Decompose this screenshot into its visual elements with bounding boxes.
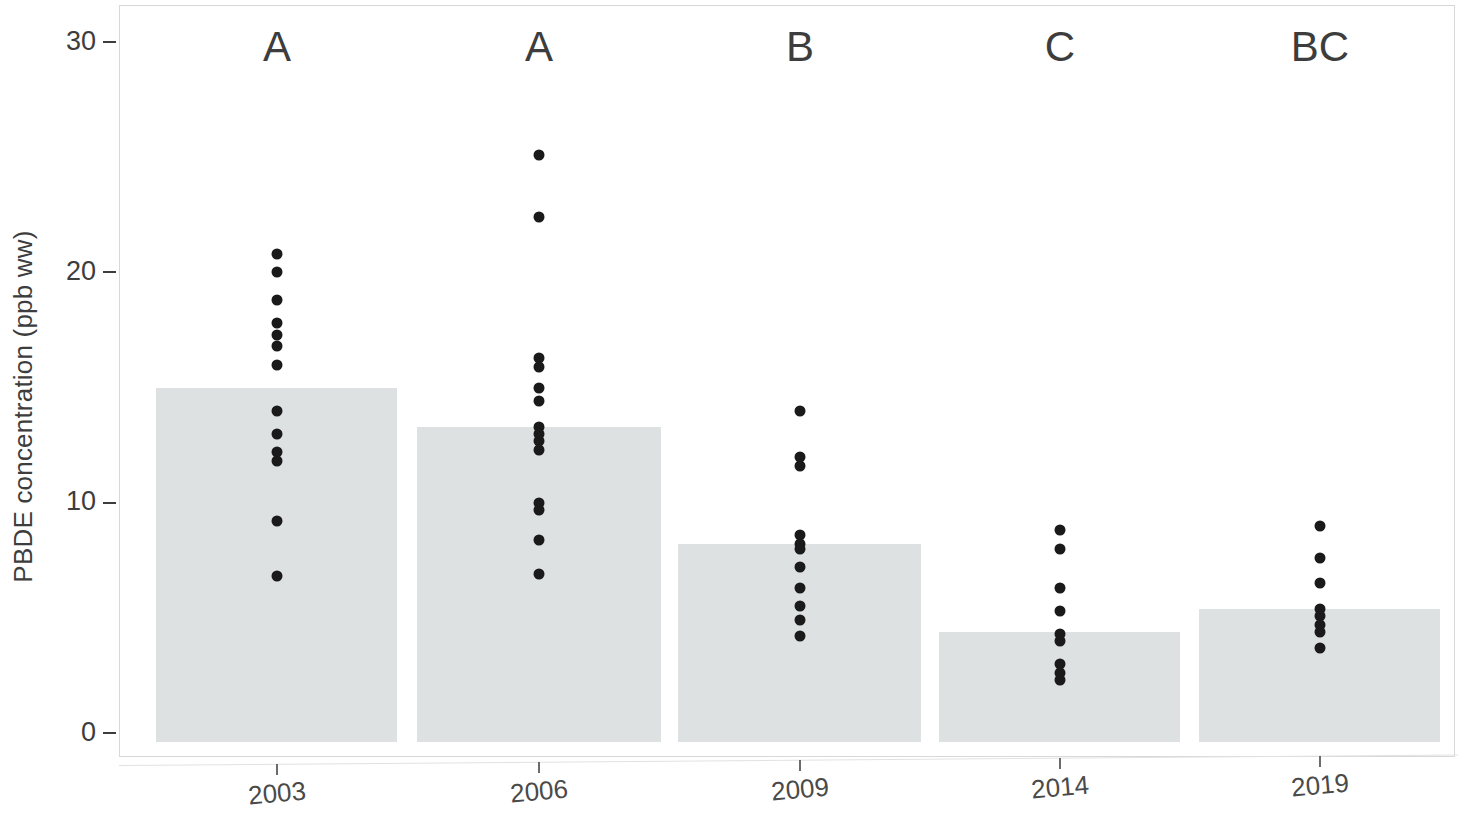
data-point [534,361,545,372]
data-point [1055,525,1066,536]
data-point [272,516,283,527]
data-point [534,444,545,455]
x-axis-tick-label-2006: 2006 [509,776,569,807]
data-point [795,405,806,416]
x-axis-tick-label-2014: 2014 [1030,772,1090,803]
bar-2014 [939,632,1180,742]
x-axis-tick-mark [1319,756,1321,767]
x-axis-tick-label-2009: 2009 [770,774,830,805]
group-letter-2006: A [525,26,553,68]
group-letter-2019: BC [1291,26,1349,68]
bar-2006 [417,427,661,742]
data-point [1055,635,1066,646]
data-point [795,460,806,471]
x-axis-tick-mark [799,760,801,771]
data-point [272,329,283,340]
data-point [1055,675,1066,686]
x-axis-tick-mark [276,764,278,775]
group-letter-2014: C [1045,26,1075,68]
data-point [534,504,545,515]
x-axis-tick-label-2003: 2003 [247,778,307,809]
data-point [534,569,545,580]
x-axis-tick-label-2019: 2019 [1290,770,1350,801]
data-point [1315,552,1326,563]
data-point [795,562,806,573]
data-point [795,582,806,593]
group-letter-2003: A [263,26,291,68]
y-axis-tick-mark [103,732,116,734]
y-axis-tick-mark [103,502,116,504]
data-point [795,631,806,642]
y-axis-tick-mark [103,41,116,43]
data-point [534,382,545,393]
data-point [795,615,806,626]
data-point [272,456,283,467]
data-point [272,318,283,329]
data-point [1315,642,1326,653]
data-point [272,428,283,439]
y-axis-tick-mark [103,271,116,273]
y-axis-tick-label: 0 [81,719,103,746]
data-point [534,212,545,223]
x-axis-tick-mark [1059,758,1061,769]
data-point [272,571,283,582]
data-point [1315,578,1326,589]
y-axis-tick-label: 20 [66,258,103,285]
data-point [1055,543,1066,554]
data-point [795,601,806,612]
data-point [272,248,283,259]
data-point [1055,605,1066,616]
data-point [272,341,283,352]
data-point [272,359,283,370]
chart-figure: 0102030 PBDE concentration (ppb ww) AABC… [0,0,1459,813]
data-point [1315,626,1326,637]
data-point [272,267,283,278]
y-axis-tick-label: 10 [66,488,103,515]
y-axis-title: PBDE concentration (ppb ww) [0,0,46,813]
bar-2009 [678,544,921,742]
data-point [1055,582,1066,593]
data-point [534,396,545,407]
data-point [272,295,283,306]
data-point [795,543,806,554]
y-axis-tick-label: 30 [66,28,103,55]
data-point [534,149,545,160]
data-point [272,405,283,416]
x-axis-tick-mark [538,762,540,773]
bar-2003 [156,388,397,742]
group-letter-2009: B [786,26,814,68]
data-point [534,534,545,545]
data-point [1315,520,1326,531]
